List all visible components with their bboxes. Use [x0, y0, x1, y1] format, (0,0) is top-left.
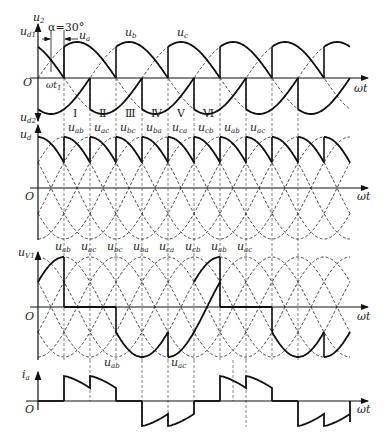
interval-numerals: ⅠⅡⅢⅣⅤⅥ	[73, 107, 214, 120]
interval-numeral: Ⅴ	[176, 107, 186, 120]
ud1-segment	[272, 42, 324, 78]
curve-label-uc: uc	[177, 26, 188, 40]
conducting-voltage-label: ucb	[198, 121, 214, 135]
ud-segment	[64, 137, 90, 163]
interval-numeral: Ⅵ	[202, 107, 214, 120]
u2-label: u2	[33, 11, 45, 25]
origin-label-1: O	[23, 76, 32, 89]
ud1-segment	[168, 42, 220, 78]
curve-label-ua: ua	[79, 29, 90, 43]
panel-phase-voltages: u2 α=30° ud1 ud2 ua ub uc O ωt1 ωt ⅠⅡⅢⅣⅤ…	[20, 11, 368, 125]
thyristor-bottom-label: uac	[171, 356, 186, 370]
omega-t1-label: ωt1	[46, 80, 61, 92]
panel-output-voltage: ud O ωt uabuacubcubaucaucbuabuac	[20, 121, 371, 240]
rectifier-waveform-diagram: u2 α=30° ud1 ud2 ua ub uc O ωt1 ωt ⅠⅡⅢⅣⅤ…	[0, 0, 386, 442]
origin-label-4: O	[25, 403, 34, 416]
conducting-voltage-label: uca	[172, 121, 187, 135]
origin-label-2: O	[25, 190, 34, 203]
interval-numeral: Ⅱ	[99, 107, 106, 120]
ud-segment	[116, 137, 142, 163]
conducting-voltage-label: uab	[68, 121, 84, 135]
waveform-figure: u2 α=30° ud1 ud2 ua ub uc O ωt1 ωt ⅠⅡⅢⅣⅤ…	[0, 0, 386, 442]
interval-numeral: Ⅲ	[125, 107, 136, 120]
ud-segment	[90, 137, 116, 163]
ud-segment	[324, 137, 350, 163]
ud-segment	[220, 137, 246, 163]
uv1-segment	[38, 257, 64, 282]
ia-label: ia	[22, 368, 30, 382]
conducting-voltage-label: ubc	[120, 121, 136, 135]
x-axis-label-4: ωt	[357, 403, 371, 416]
ud2-label: ud2	[20, 111, 37, 125]
origin-label-3: O	[25, 310, 34, 323]
ud-segment	[246, 137, 272, 163]
conducting-voltage-labels: uabuacubcubaucaucbuabuac	[68, 121, 265, 135]
conducting-voltage-label: uac	[250, 121, 265, 135]
ud2-segment	[298, 78, 350, 114]
ud-segment	[194, 137, 220, 163]
ia-negative-pulse	[298, 401, 350, 426]
thyristor-top-label: ucb	[185, 240, 201, 254]
ud1-segment	[220, 42, 272, 78]
x-axis-label-1: ωt	[354, 82, 368, 95]
thyristor-top-label: uac	[237, 240, 252, 254]
ud1-label: ud1	[20, 25, 36, 39]
uv1-segment	[324, 332, 350, 357]
thyristor-top-label: uab	[211, 240, 227, 254]
panel-thyristor-voltage: uV1 O ωt uabuacubcubaucaucbuabuacuabuac	[18, 240, 371, 370]
ud1-segment	[116, 42, 168, 78]
curve-label-ub: ub	[125, 26, 137, 40]
interval-numeral: Ⅰ	[73, 107, 77, 120]
x-axis-label-2: ωt	[357, 190, 371, 203]
ud-label: ud	[20, 128, 32, 142]
uv1-segment	[194, 257, 220, 282]
thyristor-top-label: uab	[55, 240, 71, 254]
ud1-segment	[324, 42, 350, 47]
ud-segment	[298, 137, 324, 163]
panel-phase-current: ia O ωt	[22, 368, 371, 426]
thyristor-top-label: uba	[133, 240, 149, 254]
thyristor-top-label: uca	[159, 240, 174, 254]
conducting-voltage-label: uba	[146, 121, 162, 135]
ia-negative-pulse	[142, 401, 194, 426]
x-axis-label-3: ωt	[357, 310, 371, 323]
ud-segment	[38, 137, 64, 163]
conducting-voltage-label: uab	[224, 121, 240, 135]
ud1-segment	[64, 42, 116, 78]
thyristor-top-label: uac	[81, 240, 96, 254]
conducting-voltage-label: uac	[94, 121, 109, 135]
thyristor-bottom-label: uab	[104, 356, 120, 370]
ud-segment	[272, 137, 298, 163]
ud-segment	[142, 137, 168, 163]
thyristor-top-label: ubc	[107, 240, 123, 254]
uv1-label: uV1	[18, 246, 35, 260]
interval-numeral: Ⅳ	[151, 107, 163, 120]
ud-segment	[168, 137, 194, 163]
